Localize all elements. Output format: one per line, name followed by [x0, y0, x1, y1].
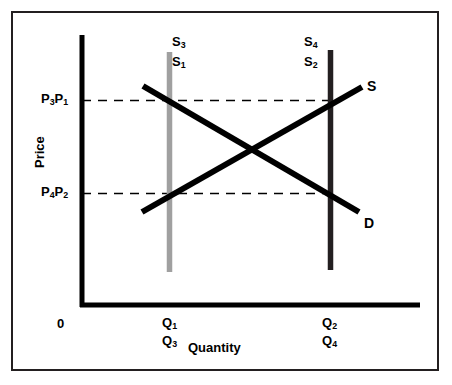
price-label-p2: P2 — [55, 184, 69, 199]
demand-curve-label: D — [364, 216, 374, 230]
price-label-p1: P1 — [55, 91, 69, 106]
supply-demand-figure: Price Quantity 0 P3P1 P4P2 S3 S1 S4 S2 S… — [0, 0, 452, 385]
price-label-p3: P3 — [41, 91, 55, 106]
quantity-tick-label-q4: Q4 — [322, 334, 337, 347]
x-axis-title: Quantity — [188, 341, 241, 354]
price-tick-label-lower: P4P2 — [41, 185, 68, 198]
vertical-line-label-s3: S3 — [172, 35, 186, 48]
price-label-p4: P4 — [41, 184, 55, 199]
quantity-tick-label-q3: Q3 — [162, 334, 177, 347]
quantity-tick-label-q1: Q1 — [162, 316, 177, 329]
vertical-line-label-s4: S4 — [304, 35, 318, 48]
origin-label: 0 — [57, 317, 64, 330]
vertical-line-label-s2: S2 — [304, 55, 318, 68]
quantity-tick-label-q2: Q2 — [322, 316, 337, 329]
supply-curve-label: S — [367, 79, 376, 93]
y-axis-title: Price — [33, 136, 46, 168]
vertical-line-label-s1: S1 — [172, 55, 186, 68]
price-tick-label-upper: P3P1 — [41, 92, 68, 105]
